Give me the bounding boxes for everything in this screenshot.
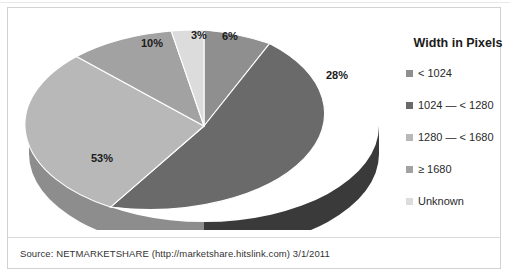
legend-item-1024-1280[interactable]: 1024 — < 1280 [406,98,510,112]
pie-chart-graphic [8,8,400,230]
legend-item-gte-1680[interactable]: ≥ 1680 [406,162,510,176]
legend-label-unknown: Unknown [418,195,464,207]
pie-data-label-lt-1024: 6% [222,30,238,42]
pie-top-face [25,30,325,210]
legend-swatch-icon-unknown [406,198,413,205]
chart-legend: Width in Pixels < 1024 1024 — < 1280 128… [406,36,510,226]
legend-label-1024-1280: 1024 — < 1280 [418,99,494,111]
pie-data-label-1024-1280: 28% [326,69,348,81]
legend-label-1280-1680: 1280 — < 1680 [418,131,494,143]
legend-label-gte-1680: ≥ 1680 [418,163,452,175]
legend-item-1280-1680[interactable]: 1280 — < 1680 [406,130,510,144]
top-rule-divider [0,2,510,3]
legend-item-unknown[interactable]: Unknown [406,194,510,208]
source-note: Source: NETMARKETSHARE (http://marketsha… [20,248,330,259]
pie-data-label-unknown: 3% [191,29,207,41]
legend-label-lt-1024: < 1024 [418,67,452,79]
chart-screenshot: 6% 28% 53% 10% 3% Width in Pixels < 1024… [0,0,510,278]
chart-card: 6% 28% 53% 10% 3% Width in Pixels < 1024… [7,7,501,269]
legend-swatch-icon-gte-1680 [406,166,413,173]
legend-swatch-icon-1024-1280 [406,102,413,109]
legend-item-lt-1024[interactable]: < 1024 [406,66,510,80]
legend-swatch-icon-lt-1024 [406,70,413,77]
pie-data-label-gte-1680: 10% [141,37,163,49]
legend-swatch-icon-1280-1680 [406,134,413,141]
pie-plot-area: 6% 28% 53% 10% 3% [8,8,400,230]
footer-divider [8,237,500,238]
legend-title: Width in Pixels [406,36,510,50]
pie-data-label-1280-1680: 53% [91,152,113,164]
